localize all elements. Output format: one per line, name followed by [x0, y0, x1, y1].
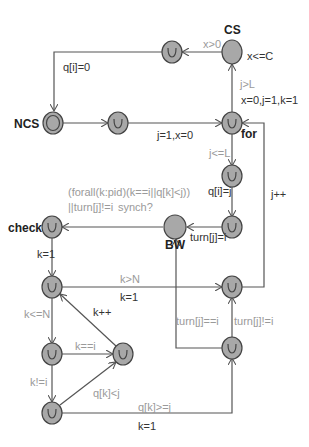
- update-k1: k=1: [37, 248, 55, 260]
- guard-j-gt-L: j>L: [239, 78, 255, 90]
- update-qi-0: q[i]=0: [63, 61, 90, 73]
- for-label: for: [241, 127, 257, 141]
- node-bw[interactable]: [164, 215, 186, 239]
- node-ncs[interactable]: [43, 112, 63, 134]
- node-for[interactable]: [222, 112, 242, 134]
- node-cs[interactable]: [222, 40, 242, 64]
- node-right2[interactable]: [222, 337, 242, 359]
- guard-qk-lt-j: q[k]<j: [93, 387, 120, 399]
- ncs-label: NCS: [14, 117, 39, 131]
- guard-turn-eq: turn[j]==i: [176, 315, 219, 327]
- automaton-diagram: CS x<=C NCS for BW check x>0 q[i]=0 j=1,…: [0, 0, 309, 447]
- node-k1[interactable]: [42, 276, 62, 298]
- bw-guard-line1: (forall(k:pid)(k==i||q[k]<j)): [68, 186, 190, 198]
- guard-x-gt-0: x>0: [203, 38, 221, 50]
- bw-guard-line2: ||turn[j]!=i: [68, 201, 113, 213]
- guard-k-gt-N: k>N: [120, 273, 140, 285]
- guard-qk-ge-j: q[k]>=j: [138, 401, 171, 413]
- guard-turn-neq: turn[j]!=i: [234, 315, 273, 327]
- guard-j-le-L: j<=L: [208, 147, 230, 159]
- node-q[interactable]: [222, 165, 242, 187]
- update-kpp: k++: [93, 306, 111, 318]
- bw-sync: synch?: [118, 201, 153, 213]
- node-u2[interactable]: [108, 112, 128, 134]
- node-right1[interactable]: [222, 276, 242, 298]
- node-check[interactable]: [42, 216, 62, 238]
- node-ki[interactable]: [42, 402, 62, 424]
- bw-label: BW: [165, 238, 186, 252]
- update-k1-right: k=1: [120, 291, 138, 303]
- update-qi-j: q[i]=j: [208, 185, 232, 197]
- node-top-urgent[interactable]: [162, 41, 182, 63]
- guard-k-eq-i: k==i: [75, 340, 96, 352]
- cs-invariant: x<=C: [247, 50, 273, 62]
- update-j1-x0: j=1,x=0: [156, 129, 193, 141]
- edge-jpp-loop: [242, 123, 264, 287]
- check-label: check: [8, 221, 42, 235]
- cs-label: CS: [224, 23, 241, 37]
- edge-turneq: [176, 239, 222, 348]
- edge-kpp: [60, 294, 116, 346]
- guard-k-neq-i: k!=i: [30, 376, 47, 388]
- update-turn: turn[j]=i: [190, 231, 226, 243]
- node-kk[interactable]: [113, 343, 133, 365]
- update-for-to-cs: x=0,j=1,k=1: [241, 94, 298, 106]
- update-k1-bottom: k=1: [138, 420, 156, 432]
- guard-k-le-N: k<=N: [24, 308, 50, 320]
- node-kn[interactable]: [42, 343, 62, 365]
- update-jpp: j++: [270, 188, 286, 200]
